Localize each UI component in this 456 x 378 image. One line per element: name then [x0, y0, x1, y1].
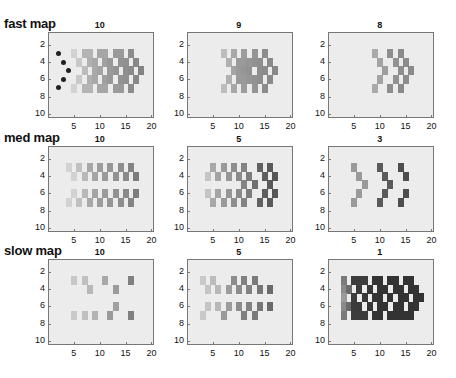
- x-tick-mark: [213, 115, 214, 117]
- x-tick-label: 15: [116, 121, 136, 131]
- x-tick-label: 5: [344, 235, 364, 245]
- y-tick-label: 8: [170, 318, 184, 328]
- heatmap-cell: [128, 84, 134, 93]
- heatmap-axes: [328, 146, 434, 232]
- heatmap-cell: [200, 311, 206, 320]
- y-tick-label: 10: [311, 222, 325, 232]
- x-tick-mark: [100, 115, 101, 117]
- x-tick-mark: [74, 115, 75, 117]
- y-tick-mark: [49, 211, 51, 212]
- y-tick-mark: [49, 272, 51, 273]
- x-tick-label: 10: [90, 348, 110, 358]
- y-tick-label: 8: [31, 205, 45, 215]
- heatmap-cell: [113, 285, 119, 294]
- y-tick-label: 8: [31, 91, 45, 101]
- heatmap-cell: [205, 285, 211, 294]
- y-tick-mark: [188, 228, 190, 229]
- y-tick-label: 6: [31, 187, 45, 197]
- heatmap-cell: [107, 311, 113, 320]
- x-tick-mark: [126, 342, 127, 344]
- heatmap-cell: [92, 172, 98, 181]
- y-tick-label: 6: [31, 73, 45, 83]
- y-tick-label: 8: [311, 318, 325, 328]
- heatmap-cell: [133, 75, 139, 84]
- x-tick-mark: [290, 115, 291, 117]
- x-tick-mark: [126, 229, 127, 231]
- x-tick-mark: [431, 342, 432, 344]
- x-tick-mark: [239, 342, 240, 344]
- y-tick-label: 2: [170, 39, 184, 49]
- x-tick-label: 20: [141, 348, 161, 358]
- y-tick-mark: [188, 159, 190, 160]
- y-tick-label: 8: [170, 91, 184, 101]
- y-tick-label: 2: [311, 266, 325, 276]
- heatmap-cell: [257, 198, 263, 207]
- y-tick-label: 4: [170, 170, 184, 180]
- x-tick-label: 20: [141, 121, 161, 131]
- heatmap-cell: [82, 311, 88, 320]
- y-tick-mark: [329, 324, 331, 325]
- heatmap-axes: [48, 32, 154, 118]
- heatmap-cell: [387, 84, 393, 93]
- heatmap-cell: [398, 198, 404, 207]
- heatmap-cell: [241, 84, 247, 93]
- heatmap-cell: [387, 180, 393, 189]
- y-tick-mark: [49, 306, 51, 307]
- heatmap-cell: [403, 75, 409, 84]
- x-tick-mark: [406, 342, 407, 344]
- heatmap-cell: [252, 311, 258, 320]
- marker-dot: [66, 68, 71, 73]
- x-tick-label: 5: [344, 121, 364, 131]
- heatmap-cell: [226, 172, 232, 181]
- row-label: med map: [4, 130, 60, 145]
- y-tick-mark: [49, 324, 51, 325]
- heatmap-cell: [102, 84, 108, 93]
- y-tick-mark: [49, 114, 51, 115]
- x-tick-mark: [265, 342, 266, 344]
- x-tick-label: 10: [229, 121, 249, 131]
- y-tick-mark: [188, 272, 190, 273]
- x-tick-mark: [380, 115, 381, 117]
- heatmap-cell: [236, 285, 242, 294]
- heatmap-cell: [71, 311, 77, 320]
- heatmap-cell: [113, 172, 119, 181]
- heatmap-cell: [246, 285, 252, 294]
- x-tick-label: 5: [344, 348, 364, 358]
- heatmap-cell: [413, 302, 419, 311]
- x-tick-label: 15: [255, 121, 275, 131]
- heatmap-cell: [82, 172, 88, 181]
- y-tick-mark: [188, 97, 190, 98]
- x-tick-label: 10: [370, 235, 390, 245]
- heatmap-axes: [48, 146, 154, 232]
- x-tick-mark: [213, 229, 214, 231]
- heatmap-cell: [221, 198, 227, 207]
- heatmap-cell: [267, 285, 273, 294]
- x-tick-mark: [239, 115, 240, 117]
- x-tick-label: 20: [421, 121, 441, 131]
- heatmap-cell: [377, 198, 383, 207]
- y-tick-mark: [329, 62, 331, 63]
- y-tick-label: 10: [311, 108, 325, 118]
- heatmap-cell: [351, 198, 357, 207]
- y-tick-mark: [49, 159, 51, 160]
- x-tick-label: 10: [370, 348, 390, 358]
- x-tick-mark: [431, 115, 432, 117]
- y-tick-mark: [49, 289, 51, 290]
- heatmap-cell: [123, 172, 129, 181]
- heatmap-cell: [87, 285, 93, 294]
- y-tick-label: 8: [311, 205, 325, 215]
- y-tick-mark: [49, 45, 51, 46]
- x-tick-label: 10: [229, 348, 249, 358]
- heatmap-cell: [210, 198, 216, 207]
- y-tick-mark: [49, 193, 51, 194]
- panel-title: 8: [360, 20, 400, 30]
- y-tick-label: 10: [311, 335, 325, 345]
- heatmap-cell: [246, 189, 252, 198]
- y-tick-label: 2: [170, 153, 184, 163]
- heatmap-cell: [257, 285, 263, 294]
- y-tick-label: 4: [311, 283, 325, 293]
- y-tick-label: 8: [31, 318, 45, 328]
- x-tick-label: 5: [64, 348, 84, 358]
- marker-dot: [56, 85, 61, 90]
- y-tick-label: 6: [311, 300, 325, 310]
